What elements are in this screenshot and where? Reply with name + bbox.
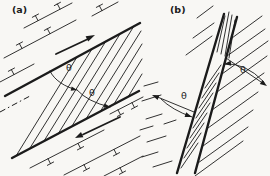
shear-zone-boundary-lower xyxy=(12,91,139,158)
theta-arc-upper-icon xyxy=(50,71,77,91)
theta-label-left: θ xyxy=(181,90,187,101)
theta-label-lower: θ xyxy=(89,87,95,98)
theta-label-upper: θ xyxy=(66,62,72,73)
strongly-rotated-fabric-top xyxy=(217,12,235,58)
arrow-head xyxy=(75,132,83,138)
theta-label-right: θ xyxy=(240,64,246,75)
fabric-lines-left-upper xyxy=(186,6,214,55)
shear-zone-figure: (a) xyxy=(0,0,270,176)
panel-b: (b) θ xyxy=(140,4,268,176)
dashed-marker-line xyxy=(0,96,30,112)
angle-arc xyxy=(50,71,77,90)
arrow-shaft xyxy=(56,39,88,54)
arrow-head xyxy=(86,35,95,42)
panel-b-label: (b) xyxy=(170,4,185,15)
panel-a-label: (a) xyxy=(12,4,27,15)
theta-arc-left-icon xyxy=(152,95,194,117)
figure-canvas: (a) xyxy=(0,0,270,176)
arrow-shaft xyxy=(83,117,120,135)
fabric-dashes-left xyxy=(140,82,176,167)
arc-arrow-head xyxy=(185,112,192,117)
panel-a: (a) xyxy=(0,2,143,176)
